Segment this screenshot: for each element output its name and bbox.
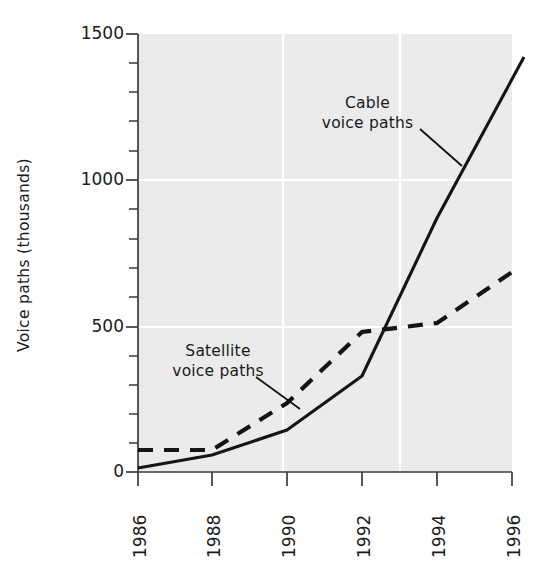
x-tick-label-1992: 1992 xyxy=(354,515,374,558)
y-axis-minor-ticks xyxy=(129,63,138,443)
y-tick-label-500: 500 xyxy=(46,316,124,336)
line-chart-canvas xyxy=(0,0,552,569)
y-tick-label-0: 0 xyxy=(46,461,124,481)
cable-annotation-line1: Cable xyxy=(285,94,450,114)
y-tick-label-1500: 1500 xyxy=(46,23,124,43)
x-tick-label-1990: 1990 xyxy=(279,515,299,558)
x-tick-label-1994: 1994 xyxy=(429,515,449,558)
x-axis-ticks xyxy=(138,472,512,486)
x-tick-label-1988: 1988 xyxy=(204,515,224,558)
cable-annotation-line2: voice paths xyxy=(285,114,450,134)
chart-figure: Voice paths (thousands) 1500 1000 500 0 … xyxy=(0,0,552,569)
x-tick-label-1986: 1986 xyxy=(130,515,150,558)
y-axis-title: Voice paths (thousands) xyxy=(15,85,33,425)
satellite-annotation-line1: Satellite xyxy=(138,342,298,362)
x-tick-label-1996: 1996 xyxy=(504,515,524,558)
satellite-annotation: Satellite voice paths xyxy=(138,342,298,382)
y-axis-major-ticks xyxy=(126,34,138,472)
satellite-annotation-line2: voice paths xyxy=(138,362,298,382)
cable-annotation: Cable voice paths xyxy=(285,94,450,134)
y-tick-label-1000: 1000 xyxy=(46,169,124,189)
